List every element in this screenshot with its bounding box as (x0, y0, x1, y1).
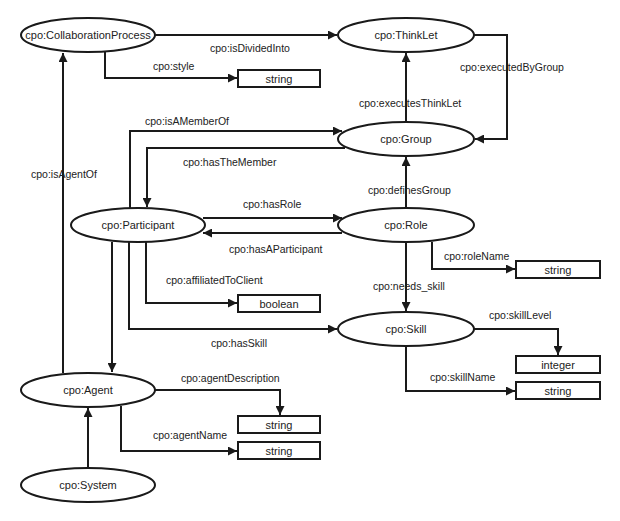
edge-skill-level (474, 329, 558, 355)
literal-skill-level-integer: integer (516, 356, 600, 373)
edge-skill-name (406, 346, 515, 391)
literal-label-role-name: string (545, 264, 572, 276)
edge-label-affiliated-to-client: cpo:affiliatedToClient (166, 274, 263, 286)
node-label-participant: cpo:Participant (102, 219, 175, 231)
edge-executed-by-group (474, 35, 507, 139)
edge-affiliated-to-client (146, 242, 237, 303)
node-agent: cpo:Agent (21, 373, 155, 407)
literal-skill-name-string: string (516, 382, 600, 399)
edge-label-executes-thinklet: cpo:executesThinkLet (359, 97, 461, 109)
edge-agent-description (155, 390, 280, 415)
edge-label-is-agent-of: cpo:isAgentOf (31, 168, 97, 180)
edge-label-needs-skill: cpo:needs_skill (373, 280, 445, 292)
literal-label-skill-name: string (545, 385, 572, 397)
literal-role-name-string: string (516, 261, 600, 278)
edge-is-a-member-of (130, 131, 342, 208)
node-thinklet: cpo:ThinkLet (338, 18, 474, 52)
node-system: cpo:System (21, 468, 155, 502)
edge-label-style: cpo:style (153, 60, 195, 72)
edge-label-agent-name: cpo:agentName (153, 429, 227, 441)
literal-affiliated-boolean: boolean (238, 295, 320, 312)
edge-label-skill-name: cpo:skillName (430, 371, 496, 383)
literal-agent-name-string: string (238, 442, 320, 459)
edge-label-executed-by-group: cpo:executedByGroup (460, 61, 564, 73)
edge-label-has-a-participant: cpo:hasAParticipant (229, 243, 322, 255)
node-collaboration-process: cpo:CollaborationProcess (21, 18, 155, 52)
literal-label-affiliated: boolean (259, 298, 298, 310)
node-label-system: cpo:System (59, 479, 116, 491)
node-group: cpo:Group (338, 122, 474, 156)
edge-label-agent-description: cpo:agentDescription (181, 372, 280, 384)
node-label-agent: cpo:Agent (63, 384, 113, 396)
literal-label-agent-description: string (266, 419, 293, 431)
edge-label-skill-level: cpo:skillLevel (489, 309, 551, 321)
edge-label-is-a-member-of: cpo:isAMemberOf (145, 115, 229, 127)
node-role: cpo:Role (338, 208, 474, 242)
edge-label-role-name: cpo:roleName (444, 250, 510, 262)
node-participant: cpo:Participant (71, 208, 205, 242)
literal-label-agent-name: string (266, 445, 293, 457)
edge-label-has-the-member: cpo:hasTheMember (183, 156, 277, 168)
ontology-diagram: cpo:isDividedInto cpo:style cpo:executed… (0, 0, 620, 521)
node-label-role: cpo:Role (384, 219, 427, 231)
edge-label-has-skill: cpo:hasSkill (211, 337, 267, 349)
edge-label-defines-group: cpo:definesGroup (368, 184, 451, 196)
literal-label-skill-level: integer (541, 359, 575, 371)
edge-label-has-role: cpo:hasRole (243, 198, 302, 210)
node-label-thinklet: cpo:ThinkLet (375, 29, 438, 41)
node-label-collaboration-process: cpo:CollaborationProcess (25, 29, 151, 41)
literal-agent-description-string: string (238, 416, 320, 433)
node-skill: cpo:Skill (338, 312, 474, 346)
node-label-group: cpo:Group (380, 133, 431, 145)
literal-style-string: string (238, 70, 320, 87)
edge-label-is-divided-into: cpo:isDividedInto (210, 42, 290, 54)
node-label-skill: cpo:Skill (386, 323, 427, 335)
literal-label-style: string (266, 73, 293, 85)
